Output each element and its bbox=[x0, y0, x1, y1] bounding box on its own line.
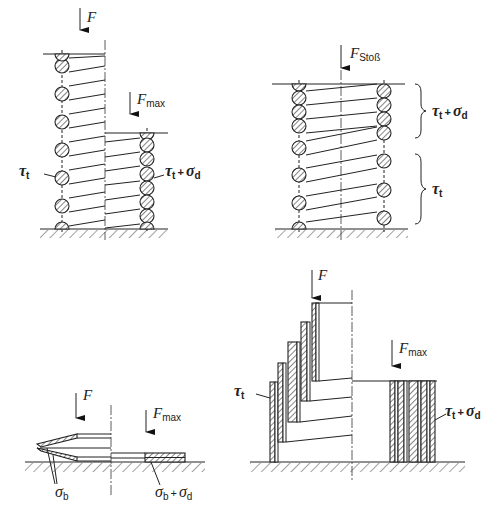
figure-volute-spring: F Fmax τt τt+σd bbox=[234, 267, 481, 480]
stress-label-left: σb bbox=[55, 483, 69, 502]
coil-wires bbox=[292, 84, 391, 229]
ground-hatch bbox=[250, 463, 465, 472]
stress-label-right: τt+σd bbox=[165, 162, 201, 181]
stress-label-left: τt bbox=[234, 382, 245, 401]
force-label: F bbox=[317, 267, 328, 283]
force-label: F bbox=[86, 9, 97, 25]
leader-line bbox=[44, 174, 56, 177]
leader-line bbox=[154, 175, 164, 178]
force-max-label: Fmax bbox=[152, 405, 181, 423]
disc-upper bbox=[37, 434, 77, 447]
spring-stress-diagram: F Fmax τt τt+σd bbox=[0, 0, 500, 508]
coil-leads bbox=[306, 84, 377, 222]
brace-lower-icon bbox=[415, 154, 426, 224]
figure-coil-spring-impact: FStoß τt+σd τt bbox=[272, 45, 468, 240]
figure-disc-spring: F Fmax σb σb+σd bbox=[25, 387, 205, 502]
force-label: F bbox=[82, 387, 93, 403]
brace-upper-icon bbox=[415, 84, 426, 138]
stress-label-left: τt bbox=[19, 162, 30, 181]
figure-coil-spring-static: F Fmax τt τt+σd bbox=[19, 8, 201, 240]
volute-strips-right bbox=[390, 381, 435, 462]
ground-hatch bbox=[275, 230, 408, 238]
coil-leads-right bbox=[105, 138, 140, 228]
coil-wires-right bbox=[140, 133, 154, 229]
stress-label-lower: τt bbox=[432, 180, 443, 199]
stress-label-upper: τt+σd bbox=[432, 102, 468, 121]
coil-leads-left bbox=[69, 56, 105, 226]
ground-hatch bbox=[40, 230, 168, 238]
stress-label-right: σb+σd bbox=[155, 483, 192, 502]
force-impact-label: FStoß bbox=[349, 45, 380, 63]
force-max-label: Fmax bbox=[398, 340, 427, 358]
force-max-label: Fmax bbox=[136, 91, 165, 109]
disc-lower bbox=[37, 448, 77, 461]
volute-strips-left bbox=[270, 303, 319, 462]
stress-label-right: τt+σd bbox=[445, 402, 481, 421]
leader-line bbox=[256, 394, 270, 398]
